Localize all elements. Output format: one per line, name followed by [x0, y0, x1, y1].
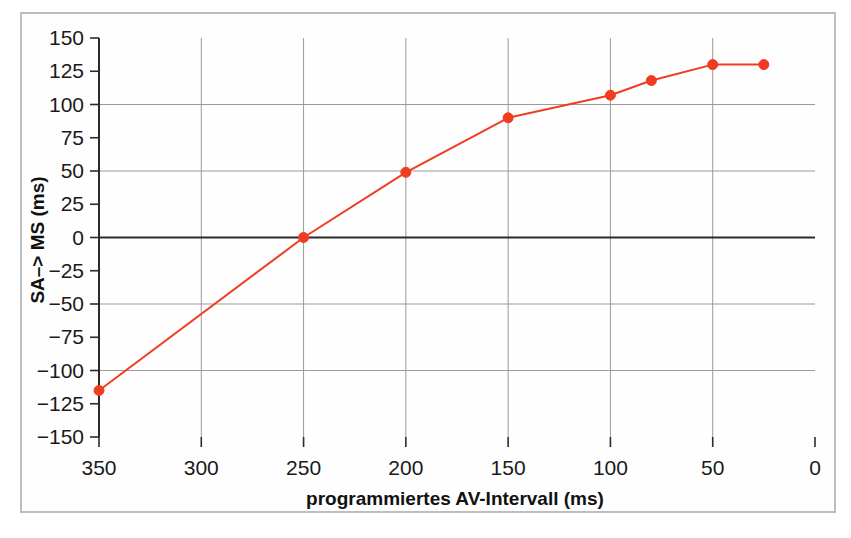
x-tick-label: 250 — [286, 456, 321, 479]
data-point-marker — [94, 385, 104, 395]
data-point-marker — [708, 60, 718, 70]
y-tick-label: 25 — [61, 192, 84, 215]
x-tick-label: 200 — [388, 456, 423, 479]
x-tick-label: 350 — [81, 456, 116, 479]
series-polyline — [99, 65, 764, 391]
y-tick-label: 75 — [61, 126, 84, 149]
x-axis-tick-labels: 350300250200150100500 — [81, 456, 820, 479]
data-point-marker — [503, 113, 513, 123]
x-axis-title: programmiertes AV-Intervall (ms) — [306, 488, 604, 509]
y-tick-label: −100 — [37, 359, 84, 382]
y-tick-label: 150 — [49, 26, 84, 49]
x-tick-label: 100 — [593, 456, 628, 479]
y-tick-label: −75 — [48, 325, 84, 348]
x-tick-label: 300 — [184, 456, 219, 479]
y-tick-label: −125 — [37, 392, 84, 415]
x-tick-label: 0 — [809, 456, 821, 479]
data-point-marker — [605, 90, 615, 100]
y-tick-label: 50 — [61, 159, 84, 182]
x-tick-label: 150 — [491, 456, 526, 479]
y-tick-label: 125 — [49, 59, 84, 82]
y-axis-title: SA–> MS (ms) — [27, 176, 48, 303]
y-tick-label: 100 — [49, 93, 84, 116]
data-point-marker — [759, 60, 769, 70]
y-tick-label: −25 — [48, 259, 84, 282]
series-markers — [94, 60, 769, 396]
data-point-marker — [401, 167, 411, 177]
data-point-marker — [646, 76, 656, 86]
data-point-marker — [299, 233, 309, 243]
y-tick-label: −150 — [37, 425, 84, 448]
series-line — [99, 65, 764, 391]
x-axis-ticks — [99, 437, 815, 447]
x-tick-label: 50 — [701, 456, 724, 479]
chart-canvas: 350300250200150100500 1501251007550250−2… — [0, 0, 851, 538]
y-axis-ticks — [90, 38, 99, 437]
y-tick-label: −50 — [48, 292, 84, 315]
y-tick-label: 0 — [72, 226, 84, 249]
